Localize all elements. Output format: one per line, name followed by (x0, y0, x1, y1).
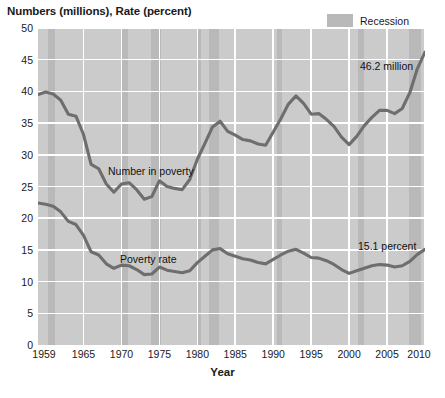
y-tick-label: 50 (21, 22, 33, 34)
recession-legend-swatch (327, 14, 353, 27)
x-tick-label: 1980 (186, 348, 209, 360)
x-axis-title: Year (0, 366, 445, 378)
x-tick-label: 2010 (407, 348, 430, 360)
recession-legend-label: Recession (360, 15, 409, 27)
y-tick-label: 15 (21, 244, 33, 256)
poverty-chart: Numbers (millions), Rate (percent) Reces… (0, 0, 445, 398)
series-number-in-poverty (38, 52, 425, 199)
y-tick-label: 35 (21, 117, 33, 129)
plot-area (38, 28, 425, 345)
series-label-number-in-poverty: Number in poverty (108, 165, 194, 177)
x-tick-label: 2000 (337, 348, 360, 360)
x-tick-label: 1975 (148, 348, 171, 360)
x-axis-tick-labels: 1959196519701975198019851990199520002005… (38, 348, 425, 364)
y-tick-label: 10 (21, 276, 33, 288)
x-tick-label: 1965 (72, 348, 95, 360)
y-tick-label: 25 (21, 181, 33, 193)
y-tick-label: 40 (21, 85, 33, 97)
y-tick-label: 45 (21, 54, 33, 66)
legend: Recession (327, 14, 409, 27)
series-label-poverty-rate: Poverty rate (120, 253, 177, 265)
x-tick-label: 1959 (32, 348, 55, 360)
y-tick-label: 5 (27, 307, 33, 319)
x-tick-label: 1970 (110, 348, 133, 360)
y-axis-title: Numbers (millions), Rate (percent) (7, 5, 191, 17)
endpoint-label-number-in-poverty: 46.2 million (360, 60, 413, 72)
x-tick-label: 1990 (262, 348, 285, 360)
series-lines (38, 28, 425, 345)
y-axis-tick-labels: 05101520253035404550 (0, 28, 33, 345)
y-tick-label: 30 (21, 149, 33, 161)
endpoint-label-poverty-rate: 15.1 percent (358, 240, 416, 252)
y-tick-label: 20 (21, 212, 33, 224)
series-poverty-rate (38, 203, 425, 275)
x-tick-label: 1995 (299, 348, 322, 360)
x-tick-label: 1985 (224, 348, 247, 360)
x-tick-label: 2005 (375, 348, 398, 360)
